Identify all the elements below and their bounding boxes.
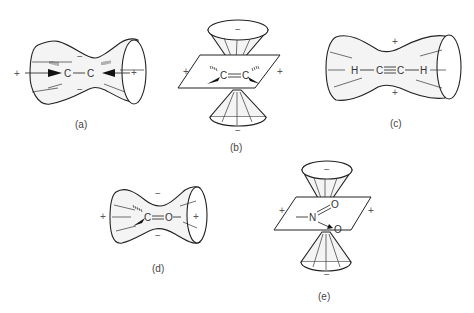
anisotropy-cones-figure: C C − − + + (a) C C − [0, 0, 474, 313]
sign-top: − [77, 51, 83, 62]
sign-top: − [324, 164, 330, 175]
atom-c2: C [397, 65, 404, 76]
sign-top: + [392, 36, 398, 47]
sign-top: − [155, 188, 161, 199]
atom-n: N [309, 212, 316, 223]
atom-h2: H [420, 65, 427, 76]
sign-left: + [279, 205, 285, 216]
sign-left: + [100, 211, 106, 222]
sign-right: + [131, 67, 137, 78]
atom-o: O [165, 212, 173, 223]
atom-o2: O [334, 224, 342, 235]
caption-b: (b) [230, 142, 242, 153]
panel-c-acetylene-horizontal-cone: H C C H + + (c) [326, 35, 461, 129]
caption-e: (e) [318, 291, 330, 302]
atom-c2: C [87, 68, 94, 79]
atom-c1: C [376, 65, 383, 76]
sign-bottom: − [235, 125, 241, 136]
atom-c1: C [64, 68, 71, 79]
sign-right: + [368, 205, 374, 216]
panel-a-ethylene-horizontal-cone: C C − − + + (a) [14, 39, 146, 130]
atom-c2: C [242, 70, 249, 81]
sign-left: + [183, 66, 189, 77]
atom-h1: H [351, 65, 358, 76]
sign-bottom: + [392, 87, 398, 98]
atom-o1: O [331, 199, 339, 210]
caption-d: (d) [152, 263, 164, 274]
sign-bottom: − [324, 269, 330, 280]
sign-bottom: − [77, 84, 83, 95]
panel-b-ethylene-vertical-cone: C C − − + + (b) [178, 20, 283, 153]
sign-bottom: − [155, 230, 161, 241]
caption-c: (c) [390, 118, 402, 129]
panel-e-nitro-vertical-cone: N O O − − + + (e) [274, 161, 374, 302]
lower-cone [210, 90, 266, 117]
atom-c1: C [220, 70, 227, 81]
caption-a: (a) [75, 119, 87, 130]
sign-right: + [277, 66, 283, 77]
sign-left: + [14, 68, 20, 79]
panel-d-carbonyl-horizontal-cone: C O − − + + (d) [100, 187, 207, 274]
atom-c: C [144, 212, 151, 223]
molecular-plane [178, 55, 280, 88]
right-cone-cap [437, 35, 461, 99]
sign-right: + [193, 211, 199, 222]
sign-top: − [235, 24, 241, 35]
molecular-plane [274, 197, 371, 230]
